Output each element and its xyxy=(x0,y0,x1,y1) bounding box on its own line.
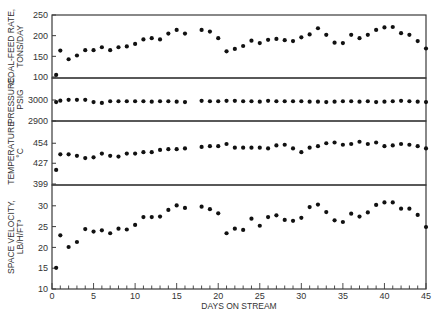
data-point xyxy=(258,146,262,150)
y-axis-title: TEMPERATURE°C xyxy=(6,121,25,185)
x-tick-label: 0 xyxy=(49,291,54,301)
data-point xyxy=(158,215,162,219)
data-point xyxy=(391,25,395,29)
data-point xyxy=(382,200,386,204)
data-point xyxy=(308,205,312,209)
data-point xyxy=(366,142,370,146)
data-point xyxy=(150,215,154,219)
data-point xyxy=(274,37,278,41)
data-point xyxy=(233,99,237,103)
data-point xyxy=(233,227,237,231)
data-point xyxy=(67,57,71,61)
data-point xyxy=(299,216,303,220)
data-point xyxy=(416,213,420,217)
data-point xyxy=(200,99,204,103)
data-point xyxy=(308,146,312,150)
data-point xyxy=(357,36,361,40)
data-point xyxy=(54,73,58,77)
data-point xyxy=(141,99,145,103)
data-point xyxy=(258,224,262,228)
x-tick-label: 5 xyxy=(91,291,96,301)
data-point xyxy=(291,39,295,43)
data-point xyxy=(75,98,79,102)
data-point xyxy=(91,100,95,104)
data-point xyxy=(424,46,428,50)
y-tick-label: 2900 xyxy=(28,116,48,126)
data-point xyxy=(291,146,295,150)
data-point xyxy=(274,99,278,103)
data-point xyxy=(83,98,87,102)
panel-3: 399427454TEMPERATURE°C xyxy=(6,121,428,189)
data-point xyxy=(382,100,386,104)
data-point xyxy=(357,140,361,144)
data-point xyxy=(200,145,204,149)
x-tick-label: 40 xyxy=(379,291,389,301)
x-tick-label: 35 xyxy=(338,291,348,301)
data-point xyxy=(332,41,336,45)
data-point xyxy=(258,100,262,104)
x-axis-title: DAYS ON STREAM xyxy=(201,301,276,311)
data-point xyxy=(116,99,120,103)
data-point xyxy=(200,205,204,209)
panel-frame xyxy=(52,78,426,121)
data-point xyxy=(241,228,245,232)
data-point xyxy=(424,100,428,104)
data-point xyxy=(291,99,295,103)
data-point xyxy=(332,140,336,144)
data-point xyxy=(233,146,237,150)
data-point xyxy=(116,45,120,49)
data-point xyxy=(249,39,253,43)
data-point xyxy=(158,37,162,41)
data-point xyxy=(241,99,245,103)
data-point xyxy=(216,36,220,40)
data-point xyxy=(133,152,137,156)
data-point xyxy=(158,99,162,103)
data-point xyxy=(324,100,328,104)
data-point xyxy=(208,99,212,103)
data-point xyxy=(133,223,137,227)
data-point xyxy=(341,99,345,103)
data-point xyxy=(75,53,79,57)
data-point xyxy=(249,99,253,103)
data-point xyxy=(216,99,220,103)
data-point xyxy=(399,31,403,35)
data-point xyxy=(266,146,270,150)
data-point xyxy=(224,99,228,103)
data-point xyxy=(366,99,370,103)
panel-1: 100150200250COAL-FEED RATE,TONS/DAY xyxy=(6,9,428,84)
data-point xyxy=(249,146,253,150)
data-point xyxy=(316,144,320,148)
data-point xyxy=(424,146,428,150)
data-point xyxy=(54,168,58,172)
data-point xyxy=(116,227,120,231)
data-point xyxy=(183,146,187,150)
data-point xyxy=(91,229,95,233)
data-point xyxy=(416,100,420,104)
data-point xyxy=(357,215,361,219)
x-tick-label: 10 xyxy=(130,291,140,301)
data-point xyxy=(349,99,353,103)
data-point xyxy=(125,99,129,103)
data-point xyxy=(67,152,71,156)
panel-2: 29003000PRESSURE,PSIG xyxy=(6,75,428,126)
data-point xyxy=(416,144,420,148)
data-point xyxy=(349,142,353,146)
data-point xyxy=(108,154,112,158)
data-point xyxy=(249,217,253,221)
data-point xyxy=(208,29,212,33)
data-point xyxy=(241,146,245,150)
data-point xyxy=(91,155,95,159)
data-point xyxy=(291,219,295,223)
x-axis: 051015202530354045 xyxy=(49,283,431,301)
data-point xyxy=(183,31,187,35)
data-point xyxy=(83,156,87,160)
y-tick-label: 10 xyxy=(38,284,48,294)
data-point xyxy=(150,150,154,154)
data-point xyxy=(125,227,129,231)
data-point xyxy=(416,39,420,43)
data-point xyxy=(208,144,212,148)
y-tick-label: 100 xyxy=(33,72,48,82)
data-point xyxy=(324,141,328,145)
data-point xyxy=(399,99,403,103)
y-tick-label: 15 xyxy=(38,263,48,273)
